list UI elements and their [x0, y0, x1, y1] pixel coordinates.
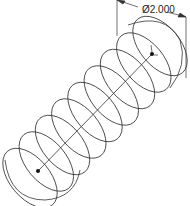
helix-coil	[8, 122, 84, 201]
drawing-canvas: Ø2.000	[0, 0, 190, 206]
helix-coil	[25, 105, 101, 184]
helix-axis-line	[38, 54, 152, 171]
diameter-label: Ø2.000	[142, 4, 175, 15]
arrowhead-right	[178, 13, 186, 17]
helix-coil	[0, 138, 68, 206]
helix-coils	[0, 6, 190, 206]
helix-drawing: Ø2.000	[0, 0, 190, 206]
end-point-tick	[151, 45, 152, 52]
arrowhead-left	[117, 0, 125, 4]
axis-end-point	[150, 52, 154, 56]
helix-end-arc	[128, 21, 182, 88]
axis-start-point	[36, 169, 40, 173]
